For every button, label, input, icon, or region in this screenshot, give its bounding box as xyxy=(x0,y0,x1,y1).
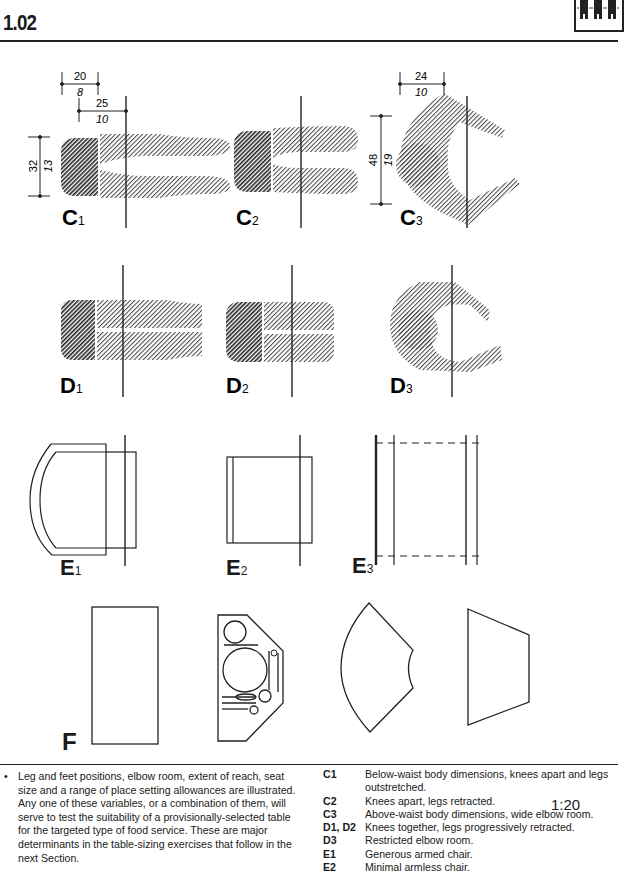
legend-code: C3 xyxy=(323,808,365,821)
dim-c1-32-metric: 32 xyxy=(27,160,39,172)
head-c3 xyxy=(396,143,440,187)
label-f: F xyxy=(62,728,77,755)
legend-item: C1Below-waist body dimensions, knees apa… xyxy=(323,768,618,795)
figure-e3: E3 xyxy=(352,435,480,578)
seat-c1 xyxy=(61,138,98,196)
dinner-plate-icon xyxy=(223,648,267,692)
label-c2: C2 xyxy=(236,205,259,230)
label-e1: E1 xyxy=(60,555,82,580)
legend-item: C2Knees apart, legs retracted. xyxy=(323,795,618,808)
chair-e1-seat-front xyxy=(106,452,136,548)
chair-e1-arms-back xyxy=(30,444,106,555)
footer-rule xyxy=(0,764,618,765)
label-e3: E3 xyxy=(352,553,374,578)
dim-c1-25-metric: 25 xyxy=(96,97,108,109)
legend-desc: Knees apart, legs retracted. xyxy=(365,795,618,808)
dim-c1-20-metric: 20 xyxy=(74,70,86,82)
seat-d1 xyxy=(61,300,95,360)
legend-desc: Below-waist body dimensions, knees apart… xyxy=(365,768,618,795)
dim-c3-19-imperial: 19 xyxy=(382,154,394,166)
chair-e2-seat xyxy=(227,457,312,543)
legend-item: D3Restricted elbow room. xyxy=(323,834,618,847)
legend-code: E2 xyxy=(323,861,365,874)
figure-c3: 24 10 48 19 C3 xyxy=(367,70,520,230)
place-setting-sector xyxy=(341,603,413,732)
dim-c1-13-imperial: 13 xyxy=(42,159,54,172)
label-c1: C1 xyxy=(62,205,85,230)
legend-code: C1 xyxy=(323,768,365,795)
legend-desc: Minimal armless chair. xyxy=(365,861,618,874)
legend-desc: Restricted elbow room. xyxy=(365,834,618,847)
figure-c2: C2 xyxy=(234,96,358,230)
label-d1: D1 xyxy=(60,373,83,398)
label-d2: D2 xyxy=(226,373,249,398)
figure-c1: 20 8 25 10 32 13 C1 xyxy=(27,70,230,230)
side-plate-icon xyxy=(224,621,246,643)
dim-c3-48-metric: 48 xyxy=(367,154,379,166)
legend-desc: Knees together, legs progressively retra… xyxy=(365,821,618,834)
dim-c3-24-metric: 24 xyxy=(415,70,427,82)
legend-code: C2 xyxy=(323,795,365,808)
dim-c3-10-imperial: 10 xyxy=(415,86,428,98)
place-setting-trapezoid xyxy=(468,609,529,725)
legend-desc: Generous armed chair. xyxy=(365,848,618,861)
figure-f: F xyxy=(62,603,529,755)
legend-desc: Above-waist body dimensions, wide elbow … xyxy=(365,808,618,821)
legend-code: E1 xyxy=(323,848,365,861)
legs-c1 xyxy=(100,134,230,198)
legend-code: D1, D2 xyxy=(323,821,365,834)
label-e2: E2 xyxy=(226,555,248,580)
seat-c2 xyxy=(234,131,271,192)
glass-icon xyxy=(259,690,271,702)
legend-item: D1, D2Knees together, legs progressively… xyxy=(323,821,618,834)
legs-c2 xyxy=(273,126,358,194)
figure-canvas: 20 8 25 10 32 13 C1 C2 24 xyxy=(0,0,618,760)
label-c3: C3 xyxy=(400,205,423,230)
label-d3: D3 xyxy=(390,373,413,398)
place-setting-detail xyxy=(218,615,283,741)
bullet-icon: • xyxy=(4,770,8,784)
head-d3 xyxy=(398,310,438,350)
dim-c1-20-imperial: 8 xyxy=(77,86,84,98)
notes-paragraph: • Leg and feet positions, elbow room, ex… xyxy=(4,770,299,865)
legend-item: E2Minimal armless chair. xyxy=(323,861,618,874)
figure-d1: D1 xyxy=(60,265,202,398)
legend-item: C3Above-waist body dimensions, wide elbo… xyxy=(323,808,618,821)
legs-d1 xyxy=(97,300,202,360)
legend-code: D3 xyxy=(323,834,365,847)
figure-d3: D3 xyxy=(390,265,502,398)
legend-item: E1Generous armed chair. xyxy=(323,848,618,861)
figure-e1: E1 xyxy=(30,435,136,580)
figure-d2: D2 xyxy=(226,265,334,398)
figure-e2: E2 xyxy=(226,435,312,580)
dim-c1-25-imperial: 10 xyxy=(96,113,109,125)
notes-text: Leg and feet positions, elbow room, exte… xyxy=(18,770,299,865)
legend-list: C1Below-waist body dimensions, knees apa… xyxy=(323,768,618,874)
place-setting-rectangle xyxy=(92,607,158,744)
legs-d2 xyxy=(264,302,334,362)
seat-d2 xyxy=(226,302,262,362)
